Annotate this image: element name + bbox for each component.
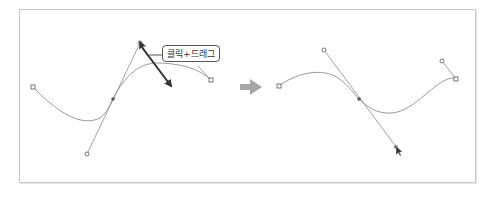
after-handle-top[interactable] [322,48,326,52]
after-anchor-point[interactable] [357,97,361,101]
click-drag-label: 클릭+드래그 [162,45,220,62]
bezier-diagram [0,0,492,197]
transition-arrow-icon [240,79,262,95]
cursor-move-icon [396,146,403,156]
after-start-point[interactable] [277,84,281,88]
after-panel [277,48,458,156]
after-end-handle[interactable] [440,59,444,63]
after-end-point[interactable] [454,77,458,81]
before-end-point[interactable] [209,78,213,82]
after-curve [279,72,456,113]
before-anchor-point[interactable] [111,97,115,101]
before-start-point[interactable] [31,85,35,89]
after-end-handle-line [442,61,456,79]
before-handle-bottom[interactable] [85,152,89,156]
before-curve [33,63,211,121]
